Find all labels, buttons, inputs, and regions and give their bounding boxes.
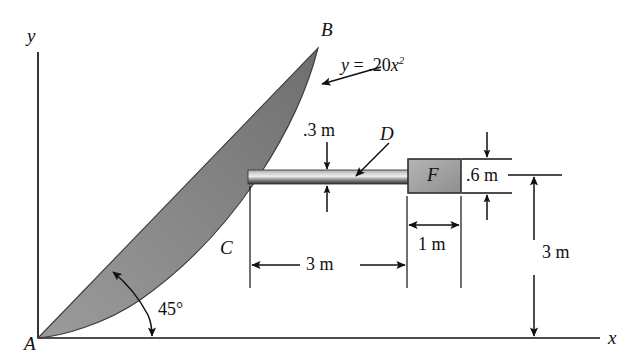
equation-coefficient: .20 xyxy=(368,55,391,75)
dim-label-rod-thickness: .3 m xyxy=(303,121,335,139)
x-axis-label: x xyxy=(608,328,616,347)
point-label-b: B xyxy=(321,20,333,39)
point-label-c: C xyxy=(220,238,233,257)
equation-lhs: y xyxy=(341,55,349,75)
rod-assembly xyxy=(248,170,410,184)
figure-drawing-canvas xyxy=(0,0,627,355)
y-axis-label: y xyxy=(27,26,35,45)
angle-arc-arrow-lower xyxy=(148,315,152,336)
point-label-d: D xyxy=(380,124,394,143)
rod-body xyxy=(248,170,410,184)
dim-label-rod-span: 3 m xyxy=(306,255,334,273)
dim-label-block-width: 1 m xyxy=(418,235,446,253)
shaded-plate-region xyxy=(38,48,318,338)
dim-label-block-height: .6 m xyxy=(466,166,498,184)
point-label-a: A xyxy=(24,334,36,353)
equation-variable: x xyxy=(391,55,399,75)
parabola-equation: y = .20x2 xyxy=(341,55,404,74)
equation-exponent: 2 xyxy=(399,54,405,66)
equation-eq-sign: = xyxy=(354,55,364,75)
plate-area-fill xyxy=(38,48,318,338)
dim-label-height-above-axis: 3 m xyxy=(542,243,570,261)
point-label-f: F xyxy=(427,165,439,184)
dim-label-angle: 45° xyxy=(158,300,183,318)
engineering-figure: y x A B C D F y = .20x2 .3 m .6 m 3 m 1 … xyxy=(0,0,627,355)
